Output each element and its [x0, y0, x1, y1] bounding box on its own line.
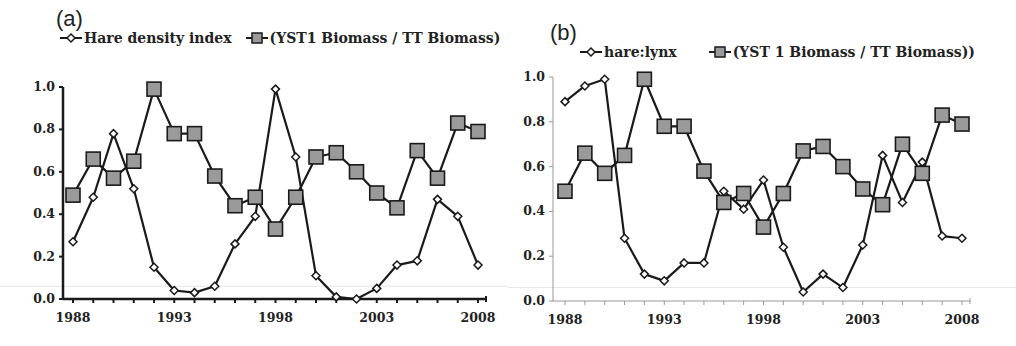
square-marker-icon: [836, 160, 850, 174]
x-tick-label: 1988: [56, 310, 91, 325]
diamond-marker-icon: [898, 198, 906, 206]
square-marker-icon: [248, 190, 262, 204]
square-marker-icon: [876, 198, 890, 212]
y-tick-label: 0.6: [523, 159, 545, 174]
series-line: [565, 79, 962, 292]
square-marker-icon: [737, 186, 751, 200]
chart-panel-b: (b) hare:lynx (YST 1 Biomass / TT Biomas…: [508, 0, 1016, 346]
x-tick-label: 2003: [359, 310, 394, 325]
square-marker-icon: [697, 164, 711, 178]
square-marker-icon: [188, 127, 202, 141]
diamond-marker-icon: [958, 234, 966, 242]
square-marker-icon: [208, 169, 222, 183]
x-tick-label: 1993: [157, 310, 192, 325]
square-marker-icon: [637, 72, 651, 86]
y-tick-label: 0.4: [523, 203, 545, 218]
y-tick-label: 1.0: [33, 79, 55, 94]
square-marker-icon: [370, 186, 384, 200]
square-marker-icon: [915, 166, 929, 180]
square-marker-icon: [329, 146, 343, 160]
diamond-marker-icon: [211, 282, 219, 290]
square-marker-icon: [776, 186, 790, 200]
square-marker-icon: [935, 108, 949, 122]
diamond-marker-icon: [474, 261, 482, 269]
square-marker-icon: [757, 220, 771, 234]
x-tick-label: 2008: [461, 310, 496, 325]
diamond-marker-icon: [292, 153, 300, 161]
square-marker-icon: [955, 117, 969, 131]
diamond-marker-icon: [779, 243, 787, 251]
diamond-marker-icon: [110, 130, 118, 138]
diamond-marker-icon: [353, 295, 361, 303]
x-tick-label: 2008: [945, 312, 980, 327]
square-marker-icon: [558, 184, 572, 198]
square-marker-icon: [147, 82, 161, 96]
diamond-marker-icon: [601, 75, 609, 83]
x-tick-label: 1988: [548, 312, 583, 327]
x-tick-label: 1993: [647, 312, 682, 327]
square-marker-icon: [677, 119, 691, 133]
square-marker-icon: [289, 190, 303, 204]
diamond-marker-icon: [69, 238, 77, 246]
diamond-marker-icon: [89, 193, 97, 201]
square-marker-icon: [228, 199, 242, 213]
square-marker-icon: [86, 152, 100, 166]
square-marker-icon: [66, 188, 80, 202]
diamond-marker-icon: [859, 241, 867, 249]
square-marker-icon: [657, 119, 671, 133]
square-marker-icon: [107, 171, 121, 185]
square-marker-icon: [796, 144, 810, 158]
chart-panel-a: (a) Hare density index (YST1 Biomass / T…: [0, 0, 508, 346]
line-chart-a: 0.00.20.40.60.81.019881993199820032008: [0, 0, 508, 346]
diamond-marker-icon: [413, 257, 421, 265]
square-marker-icon: [578, 146, 592, 160]
square-marker-icon: [167, 127, 181, 141]
square-marker-icon: [309, 150, 323, 164]
x-tick-label: 2003: [845, 312, 880, 327]
square-marker-icon: [598, 166, 612, 180]
line-chart-b: 0.00.20.40.60.81.019881993199820032008: [508, 0, 1016, 346]
diamond-marker-icon: [272, 85, 280, 93]
y-tick-label: 0.0: [33, 291, 55, 306]
x-tick-label: 1998: [258, 310, 293, 325]
x-tick-label: 1998: [746, 312, 781, 327]
y-tick-label: 0.8: [33, 121, 55, 136]
square-marker-icon: [127, 154, 141, 168]
diamond-marker-icon: [130, 185, 138, 193]
y-tick-label: 0.8: [523, 114, 545, 129]
y-tick-label: 0.2: [523, 248, 545, 263]
square-marker-icon: [390, 201, 404, 215]
y-tick-label: 0.4: [33, 206, 55, 221]
square-marker-icon: [410, 144, 424, 158]
square-marker-icon: [269, 222, 283, 236]
y-tick-label: 1.0: [523, 69, 545, 84]
series-line: [73, 89, 478, 299]
square-marker-icon: [618, 148, 632, 162]
square-marker-icon: [350, 165, 364, 179]
y-tick-label: 0.6: [33, 164, 55, 179]
y-tick-label: 0.2: [33, 249, 55, 264]
square-marker-icon: [451, 116, 465, 130]
square-marker-icon: [431, 171, 445, 185]
diamond-marker-icon: [879, 151, 887, 159]
diamond-marker-icon: [700, 259, 708, 267]
square-marker-icon: [717, 195, 731, 209]
diamond-marker-icon: [191, 289, 199, 297]
square-marker-icon: [816, 139, 830, 153]
square-marker-icon: [856, 182, 870, 196]
square-marker-icon: [895, 137, 909, 151]
square-marker-icon: [471, 125, 485, 139]
y-tick-label: 0.0: [523, 293, 545, 308]
diamond-marker-icon: [938, 232, 946, 240]
